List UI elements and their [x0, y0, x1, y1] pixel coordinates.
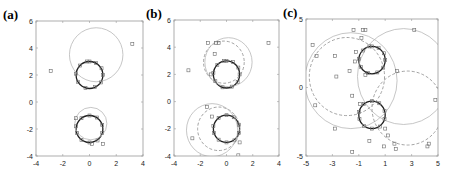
- y-tick-label: 4: [29, 45, 33, 52]
- data-point-marker: [434, 98, 437, 101]
- x-tick-label: -3: [329, 160, 335, 167]
- data-point-marker: [382, 145, 385, 148]
- y-tick-label: 2: [167, 71, 171, 78]
- x-tick-label: 1: [383, 160, 387, 167]
- y-tick-label: 6: [167, 17, 171, 24]
- y-tick-label: 0: [167, 98, 171, 105]
- x-tick-label: 2: [251, 160, 255, 167]
- data-point-marker: [368, 139, 371, 142]
- axes-box: [306, 19, 438, 156]
- plot-area: [49, 28, 134, 146]
- data-point-marker: [207, 42, 210, 45]
- panel-b-label: (b): [146, 6, 162, 21]
- y-tick-label: 6: [29, 18, 33, 25]
- x-tick-label: -2: [197, 160, 203, 167]
- y-tick-label: 4: [167, 44, 171, 51]
- data-point-marker: [348, 70, 351, 73]
- figure: (a) -4-2024-4-20246 (b) -4-2024-4-20246 …: [0, 0, 454, 174]
- x-tick-label: 0: [88, 160, 92, 167]
- panel-a-label: (a): [3, 7, 18, 22]
- data-point-marker: [359, 102, 362, 105]
- y-tick-label: -4: [165, 153, 171, 160]
- x-tick-label: 2: [114, 160, 118, 167]
- x-tick-label: 3: [410, 160, 414, 167]
- dashed-circle: [372, 71, 443, 145]
- circle-fit: [186, 104, 237, 157]
- y-tick-label: -2: [165, 125, 171, 132]
- circle-fit: [357, 29, 449, 125]
- data-point-marker: [352, 28, 355, 31]
- y-tick-label: 0: [29, 99, 33, 106]
- data-point-marker: [360, 37, 363, 40]
- panel-c-label: (c): [283, 5, 297, 20]
- panel-b: (b) -4-2024-4-20246: [146, 6, 281, 167]
- x-tick-label: -5: [303, 160, 309, 167]
- x-tick-label: 4: [277, 160, 281, 167]
- dashed-circle: [198, 107, 240, 151]
- x-tick-label: 0: [225, 160, 229, 167]
- x-tick-label: 4: [141, 160, 145, 167]
- scatter-figure: (a) -4-2024-4-20246 (b) -4-2024-4-20246 …: [0, 0, 454, 174]
- dashed-circle: [309, 37, 384, 115]
- data-point-marker: [351, 150, 354, 153]
- x-tick-label: 5: [436, 160, 440, 167]
- data-point-marker: [211, 115, 214, 118]
- y-tick-label: -5: [297, 153, 303, 160]
- data-point-marker: [101, 142, 104, 145]
- x-tick-label: -4: [171, 160, 177, 167]
- data-point-marker: [386, 134, 389, 137]
- circle-fit: [305, 33, 397, 129]
- data-point-marker: [353, 60, 356, 63]
- data-point-marker: [394, 148, 397, 151]
- data-point-marker: [355, 50, 358, 53]
- panel-c: (c) -5-3-1135-505: [283, 5, 450, 167]
- y-tick-label: 5: [299, 16, 303, 23]
- x-tick-label: -1: [356, 160, 362, 167]
- circle-fit: [205, 38, 252, 87]
- data-point-marker: [334, 127, 337, 130]
- plot-area: [186, 38, 270, 157]
- data-point-marker: [334, 54, 337, 57]
- data-point-marker: [314, 104, 317, 107]
- data-point-marker: [187, 69, 190, 72]
- data-point-marker: [131, 42, 134, 45]
- data-point-marker: [49, 69, 52, 72]
- plot-area: [305, 28, 450, 153]
- data-point-marker: [238, 141, 241, 144]
- panel-a: (a) -4-2024-4-20246: [3, 7, 145, 167]
- data-point-marker: [191, 137, 194, 140]
- data-point-marker: [351, 94, 354, 97]
- data-point-marker: [335, 75, 338, 78]
- x-tick-label: -4: [33, 160, 39, 167]
- data-point-marker: [213, 53, 216, 56]
- data-point-marker: [384, 127, 387, 130]
- y-tick-label: 0: [299, 84, 303, 91]
- y-tick-label: -4: [27, 153, 33, 160]
- y-tick-label: 2: [29, 72, 33, 79]
- x-tick-label: -2: [60, 160, 66, 167]
- y-tick-label: -2: [27, 126, 33, 133]
- data-point-marker: [311, 44, 314, 47]
- circle-fit: [359, 46, 385, 73]
- data-point-marker: [267, 42, 270, 45]
- data-point-marker: [205, 106, 208, 109]
- circle-fit: [76, 62, 103, 89]
